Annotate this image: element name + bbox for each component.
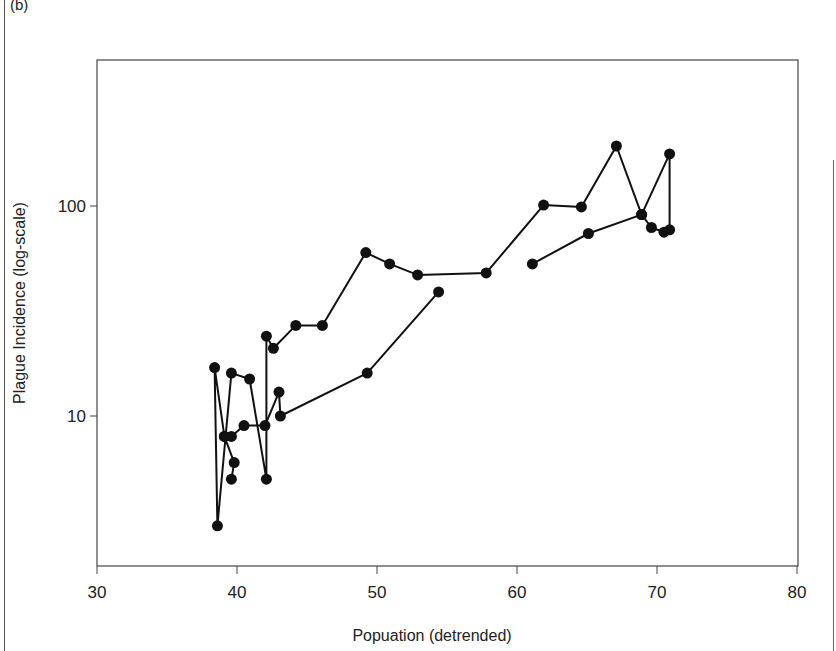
data-point-marker (360, 247, 371, 258)
data-point-marker (611, 141, 622, 152)
data-point-marker (576, 201, 587, 212)
chart: 304050607080 10100 Popuation (detrended)… (0, 0, 836, 651)
data-point-marker (290, 320, 301, 331)
data-point-marker (317, 320, 328, 331)
data-point-marker (384, 258, 395, 269)
data-point-marker (209, 362, 220, 373)
x-tick-label: 80 (788, 583, 807, 602)
data-point-marker (261, 474, 272, 485)
data-point-marker (229, 457, 240, 468)
x-tick-label: 70 (648, 583, 667, 602)
x-tick-label: 40 (228, 583, 247, 602)
data-point-marker (274, 387, 285, 398)
y-axis-title: Plague Incidence (log-scale) (11, 202, 28, 404)
x-axis-title: Popuation (detrended) (352, 627, 511, 644)
data-point-marker (527, 258, 538, 269)
data-point-marker (226, 368, 237, 379)
data-lines (215, 146, 670, 526)
data-point-marker (260, 420, 271, 431)
data-point-marker (433, 286, 444, 297)
x-axis: 304050607080 (88, 566, 807, 602)
data-point-marker (226, 474, 237, 485)
y-tick-label: 10 (67, 407, 86, 426)
data-point-marker (362, 368, 373, 379)
data-point-marker (244, 374, 255, 385)
data-point-marker (636, 209, 647, 220)
data-point-marker (212, 520, 223, 531)
data-point-marker (664, 148, 675, 159)
y-tick-label: 100 (58, 197, 86, 216)
y-axis: 10100 (58, 197, 97, 426)
data-point-marker (538, 200, 549, 211)
data-markers (209, 141, 675, 532)
data-point-marker (664, 224, 675, 235)
data-point-marker (239, 420, 250, 431)
plot-area (97, 60, 798, 566)
data-point-marker (646, 222, 657, 233)
data-point-marker (275, 411, 286, 422)
data-point-marker (261, 331, 272, 342)
x-tick-label: 60 (508, 583, 527, 602)
data-point-marker (583, 228, 594, 239)
data-point-marker (268, 343, 279, 354)
x-tick-label: 50 (368, 583, 387, 602)
data-point-marker (481, 267, 492, 278)
data-point-marker (226, 431, 237, 442)
data-point-marker (412, 269, 423, 280)
series-line-trajectory-main (215, 146, 670, 526)
x-tick-label: 30 (88, 583, 107, 602)
